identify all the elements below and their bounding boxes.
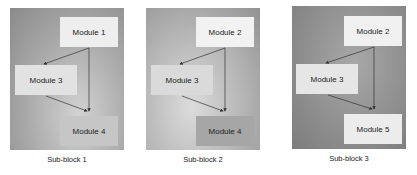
sub-block-3-panel: Module 2 Module 3 Module 5 [292, 6, 406, 149]
sub-block-3-caption: Sub-block 3 [292, 154, 406, 163]
arrows [292, 6, 406, 149]
arrows [146, 8, 260, 150]
sub-block-2-caption: Sub-block 2 [146, 155, 260, 164]
sub-block-1-panel: Module 1 Module 3 Module 4 [10, 8, 124, 150]
sub-block-1-caption: Sub-block 1 [10, 155, 124, 164]
sub-block-2-panel: Module 2 Module 3 Module 4 [146, 8, 260, 150]
arrows [10, 8, 124, 150]
